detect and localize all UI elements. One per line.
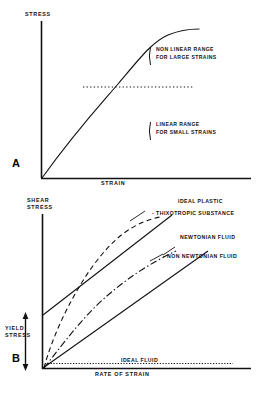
curve-label-newtonian-fluid: NEWTONIAN FLUID bbox=[180, 234, 235, 241]
panel-a-plot bbox=[0, 0, 262, 196]
panel-a-y-axis-label: STRESS bbox=[25, 11, 51, 18]
panel-a-x-axis-label: STRAIN bbox=[101, 180, 125, 187]
yield-stress-label: YIELD STRESS bbox=[5, 325, 31, 340]
panel-b-x-axis-label: RATE OF STRAIN bbox=[95, 371, 150, 378]
yield-stress-label-line1: YIELD bbox=[5, 325, 31, 332]
annotation-non-linear-range: NON LINEAR RANGE FOR LARGE STRAINS bbox=[156, 46, 217, 61]
annotation-non-linear-range-line2: FOR LARGE STRAINS bbox=[156, 54, 217, 62]
panel-a-letter: A bbox=[12, 157, 20, 169]
panel-b-y-axis-label-line1: SHEAR bbox=[27, 197, 53, 204]
panel-b-y-axis-label: SHEAR STRESS bbox=[27, 197, 53, 212]
curve-non-newtonian-fluid bbox=[44, 251, 176, 368]
panel-a-nonlinear-brace bbox=[149, 47, 150, 65]
curve-newtonian-fluid bbox=[43, 251, 208, 368]
curve-label-ideal-plastic: IDEAL PLASTIC bbox=[178, 198, 223, 205]
panel-b-letter: B bbox=[12, 352, 20, 364]
annotation-non-linear-range-line1: NON LINEAR RANGE bbox=[156, 46, 217, 54]
curve-label-thixotropic-substance: - THIXOTROPIC SUBSTANCE bbox=[152, 210, 234, 217]
curve-label-ideal-fluid: IDEAL FLUID bbox=[121, 357, 158, 364]
annotation-linear-range-line2: FOR SMALL STRAINS bbox=[156, 129, 216, 137]
yield-stress-arrow-head-top bbox=[23, 312, 29, 319]
panel-b-y-axis-label-line2: STRESS bbox=[27, 204, 53, 211]
leader-thixotropic bbox=[130, 211, 145, 221]
annotation-linear-range-line1: LINEAR RANGE bbox=[156, 121, 216, 129]
rheology-figure: STRESS STRAIN NON LINEAR RANGE FOR LARGE… bbox=[0, 0, 262, 393]
curve-label-non-newtonian-fluid: - NON NEWTONIAN FLUID bbox=[163, 253, 237, 260]
panel-a-linear-brace bbox=[149, 122, 150, 140]
annotation-linear-range-block: LINEAR RANGE FOR SMALL STRAINS bbox=[156, 121, 216, 136]
yield-stress-arrow-head-bottom bbox=[23, 364, 29, 371]
leader-non-newtonian bbox=[150, 254, 163, 261]
curve-ideal-plastic bbox=[43, 215, 172, 315]
yield-stress-label-line2: STRESS bbox=[5, 332, 31, 339]
